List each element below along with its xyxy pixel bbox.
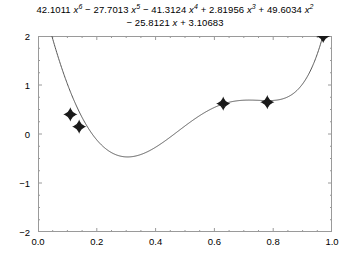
plot-canvas — [38, 36, 332, 232]
x-tick-label: 0.4 — [139, 236, 173, 247]
data-point-marker — [74, 121, 84, 131]
y-tick-label: 0 — [4, 129, 30, 140]
x-tick-label: 0.0 — [21, 236, 55, 247]
data-point-marker — [318, 36, 328, 41]
y-tick-label: 2 — [4, 31, 30, 42]
chart-title-line-2: − 25.8121 x + 3.10683 — [0, 16, 350, 29]
x-tick-label: 0.8 — [256, 236, 290, 247]
chart-title-line-1: 42.1011 x6 − 27.7013 x5 − 41.3124 x4 + 2… — [0, 3, 350, 16]
chart-title: 42.1011 x6 − 27.7013 x5 − 41.3124 x4 + 2… — [0, 3, 350, 29]
chart-figure: 42.1011 x6 − 27.7013 x5 − 41.3124 x4 + 2… — [0, 0, 350, 254]
plot-area — [38, 36, 332, 232]
polynomial-curve — [51, 36, 323, 157]
y-tick-label: −1 — [4, 178, 30, 189]
x-tick-label: 0.2 — [80, 236, 114, 247]
data-point-marker — [262, 97, 272, 107]
data-point-marker — [65, 109, 75, 119]
x-tick-label: 0.6 — [197, 236, 231, 247]
x-tick-label: 1.0 — [315, 236, 349, 247]
axis-ticks — [38, 36, 332, 232]
data-point-marker — [218, 98, 228, 108]
y-tick-label: 1 — [4, 80, 30, 91]
